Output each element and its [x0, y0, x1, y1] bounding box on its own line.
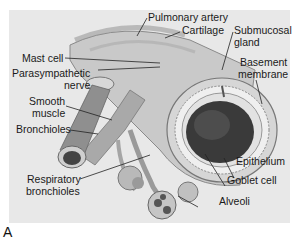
label-parasympathetic-nerve-line2: nerve — [64, 80, 90, 91]
label-epithelium: Epithelium — [236, 156, 285, 167]
label-cartilage: Cartilage — [182, 25, 224, 36]
label-basement-membrane-line1: Basement — [240, 57, 287, 68]
label-smooth-muscle-line2: muscle — [32, 108, 65, 119]
label-smooth-muscle-line1: Smooth — [29, 96, 65, 107]
label-pulmonary-artery: Pulmonary artery — [148, 12, 228, 23]
label-alveoli: Alveoli — [219, 196, 250, 207]
label-parasympathetic-nerve-line1: Parasympathetic — [12, 68, 90, 79]
label-submucosal-gland-line1: Submucosal — [234, 25, 292, 36]
label-goblet-cell: Goblet cell — [227, 175, 277, 186]
label-bronchioles: Bronchioles — [16, 124, 71, 135]
label-submucosal-gland-line2: gland — [234, 37, 260, 48]
label-basement-membrane-line2: membrane — [238, 69, 288, 80]
label-mast-cell: Mast cell — [22, 53, 63, 64]
label-respiratory-bronchioles-line2: bronchioles — [26, 186, 80, 197]
figure-panel-letter: A — [3, 224, 12, 240]
label-respiratory-bronchioles-line1: Respiratory — [27, 174, 81, 185]
